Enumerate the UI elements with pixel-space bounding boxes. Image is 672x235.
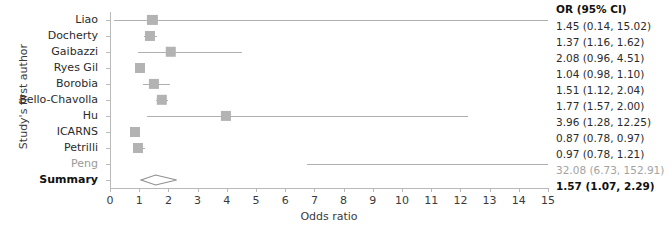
x-axis-tick-label: 8 <box>340 194 347 207</box>
x-axis-line: 0123456789101112131415 <box>110 188 548 189</box>
or-value: 1.04 (0.98, 1.10) <box>556 66 672 82</box>
x-axis-tick-label: 4 <box>223 194 230 207</box>
x-axis-tick <box>314 188 315 192</box>
confidence-interval-line <box>138 52 242 53</box>
study-label-ryes-gil: Ryes Gil <box>0 60 104 76</box>
confidence-interval-line <box>114 20 548 21</box>
or-value: 1.51 (1.12, 2.04) <box>556 82 672 98</box>
effect-marker <box>147 15 157 25</box>
effect-marker <box>130 127 140 137</box>
forest-row <box>110 156 548 172</box>
x-axis-tick <box>519 188 520 192</box>
x-axis-tick <box>548 188 549 192</box>
x-axis-tick-label: 1 <box>136 194 143 207</box>
forest-plot: Study's first author LiaoDochertyGaibazz… <box>0 0 672 235</box>
or-value: 1.77 (1.57, 2.00) <box>556 98 672 114</box>
x-axis-tick <box>139 188 140 192</box>
study-label-icarns: ICARNS <box>0 124 104 140</box>
forest-row <box>110 12 548 28</box>
study-label-borobia: Borobia <box>0 76 104 92</box>
study-label-docherty: Docherty <box>0 28 104 44</box>
x-axis-tick-label: 3 <box>194 194 201 207</box>
x-axis-tick <box>373 188 374 192</box>
x-axis-tick <box>460 188 461 192</box>
x-axis-tick <box>431 188 432 192</box>
x-axis-title: Odds ratio <box>110 210 548 223</box>
study-label-summary: Summary <box>0 172 104 188</box>
or-value: 1.45 (0.14, 15.02) <box>556 18 672 34</box>
or-value: 3.96 (1.28, 12.25) <box>556 114 672 130</box>
or-value: 0.87 (0.78, 0.97) <box>556 130 672 146</box>
forest-row <box>110 108 548 124</box>
study-label-petrilli: Petrilli <box>0 140 104 156</box>
effect-marker <box>145 31 155 41</box>
study-name-column: LiaoDochertyGaibazziRyes GilBorobiaBello… <box>0 12 104 188</box>
or-value: 1.57 (1.07, 2.29) <box>556 178 672 194</box>
confidence-interval-line <box>147 116 467 117</box>
forest-row <box>110 60 548 76</box>
x-axis-tick <box>168 188 169 192</box>
study-label-hu: Hu <box>0 108 104 124</box>
x-axis-tick-label: 5 <box>253 194 260 207</box>
or-value: 0.97 (0.78, 1.21) <box>556 146 672 162</box>
or-column: OR (95% CI) 1.45 (0.14, 15.02)1.37 (1.16… <box>556 0 672 194</box>
forest-row <box>110 76 548 92</box>
or-value: 32.08 (6.73, 152.91) <box>556 162 672 178</box>
forest-row <box>110 172 548 188</box>
study-label-gaibazzi: Gaibazzi <box>0 44 104 60</box>
x-axis-tick <box>402 188 403 192</box>
x-axis-tick-label: 11 <box>424 194 438 207</box>
effect-marker <box>156 95 166 105</box>
study-label-bello-chavolla: Bello-Chavolla <box>0 92 104 108</box>
study-label-peng: Peng <box>0 156 104 172</box>
x-axis-tick <box>256 188 257 192</box>
effect-marker <box>133 143 143 153</box>
x-axis-tick-label: 14 <box>512 194 526 207</box>
forest-row <box>110 140 548 156</box>
x-axis-tick-label: 12 <box>453 194 467 207</box>
x-axis-tick-label: 2 <box>165 194 172 207</box>
x-axis-tick <box>110 188 111 192</box>
effect-marker <box>221 111 231 121</box>
x-axis-tick <box>344 188 345 192</box>
confidence-interval-line <box>307 164 548 165</box>
forest-row <box>110 44 548 60</box>
forest-row <box>110 28 548 44</box>
x-axis-tick-label: 0 <box>107 194 114 207</box>
effect-marker <box>135 63 145 73</box>
x-axis-tick <box>198 188 199 192</box>
x-axis-tick-label: 7 <box>311 194 318 207</box>
effect-marker <box>149 79 159 89</box>
x-axis-tick <box>490 188 491 192</box>
or-value: 1.37 (1.16, 1.62) <box>556 34 672 50</box>
x-axis-tick-label: 15 <box>541 194 555 207</box>
x-axis-tick-label: 9 <box>369 194 376 207</box>
or-column-header: OR (95% CI) <box>556 0 672 18</box>
or-value: 2.08 (0.96, 4.51) <box>556 50 672 66</box>
plot-area <box>110 12 548 188</box>
x-axis-tick-label: 10 <box>395 194 409 207</box>
x-axis-tick <box>227 188 228 192</box>
x-axis-tick-label: 13 <box>483 194 497 207</box>
x-axis-tick-label: 6 <box>282 194 289 207</box>
effect-marker <box>166 47 176 57</box>
x-axis-tick <box>285 188 286 192</box>
forest-row <box>110 124 548 140</box>
study-label-liao: Liao <box>0 12 104 28</box>
forest-row <box>110 92 548 108</box>
